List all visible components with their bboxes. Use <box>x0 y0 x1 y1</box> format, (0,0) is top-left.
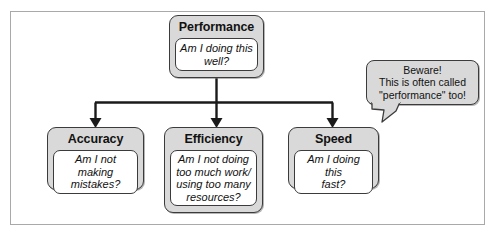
node-speed[interactable]: Speed Am I doing this fast? <box>288 127 379 189</box>
node-speed-question: Am I doing this fast? <box>294 150 373 194</box>
node-speed-title: Speed <box>315 132 352 147</box>
node-accuracy-question: Am I not making mistakes? <box>53 150 138 194</box>
diagram-canvas: Performance Am I doing this well? Accura… <box>0 0 496 235</box>
node-efficiency-question: Am I not doing too much work/ using too … <box>170 150 257 206</box>
node-efficiency-title: Efficiency <box>184 132 242 147</box>
node-efficiency[interactable]: Efficiency Am I not doing too much work/… <box>164 127 263 213</box>
node-performance-title: Performance <box>179 20 254 35</box>
node-accuracy-title: Accuracy <box>68 132 124 147</box>
node-performance[interactable]: Performance Am I doing this well? <box>169 15 264 78</box>
callout-beware[interactable]: Beware! This is often called "performanc… <box>366 60 479 105</box>
callout-tail-icon <box>370 102 404 124</box>
node-accuracy[interactable]: Accuracy Am I not making mistakes? <box>47 127 144 190</box>
callout-beware-text: Beware! This is often called "performanc… <box>366 60 479 105</box>
node-performance-question: Am I doing this well? <box>175 38 258 71</box>
